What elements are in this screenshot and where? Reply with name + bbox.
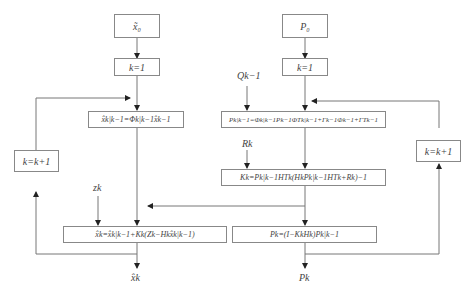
state-prediction-label: x̂k|k−1=Φk|k−1x̂k−1	[102, 115, 171, 124]
covariance-update-box: Pk=(I−KkHk)Pk|k−1	[232, 226, 377, 243]
left-k-init-label: k=1	[129, 62, 145, 73]
kalman-gain-box: Kk=Pk|k−1HTk(HkPk|k−1HTk+Rk)−1	[221, 169, 386, 186]
initial-covariance-box: P₀	[282, 14, 328, 38]
state-update-label: x̂k=x̂k|k−1+Kk(Zk−Hkx̂k|k−1)	[95, 230, 194, 239]
kalman-gain-label: Kk=Pk|k−1HTk(HkPk|k−1HTk+Rk)−1	[240, 173, 367, 182]
connector-lines	[0, 0, 473, 301]
measurement-input-label: zk	[93, 182, 101, 193]
right-k-init-box: k=1	[282, 58, 328, 76]
state-prediction-box: x̂k|k−1=Φk|k−1x̂k−1	[88, 111, 184, 128]
left-loop-increment-box: k=k+1	[14, 150, 59, 172]
measurement-noise-input-label: Rk	[242, 138, 253, 149]
covariance-prediction-label: Pk|k−1=Φk|k−1Pk−1ΦTk|k−1+Γk−1Φk−1+ΓTk−1	[229, 116, 378, 124]
initial-state-box: x̃₀	[114, 14, 160, 38]
initial-covariance-label: P₀	[300, 21, 310, 32]
left-k-init-box: k=1	[114, 58, 160, 76]
left-loop-increment-label: k=k+1	[23, 156, 50, 167]
state-update-box: x̂k=x̂k|k−1+Kk(Zk−Hkx̂k|k−1)	[63, 226, 227, 243]
covariance-update-label: Pk=(I−KkHk)Pk|k−1	[270, 230, 339, 239]
right-loop-increment-label: k=k+1	[425, 146, 452, 157]
right-loop-increment-box: k=k+1	[416, 140, 461, 162]
initial-state-label: x̃₀	[133, 21, 141, 32]
right-k-init-label: k=1	[297, 62, 313, 73]
process-noise-input-label: Qk−1	[237, 70, 260, 81]
covariance-output-label: Pk	[299, 272, 310, 283]
state-output-label: x̂k	[131, 272, 140, 283]
covariance-prediction-box: Pk|k−1=Φk|k−1Pk−1ΦTk|k−1+Γk−1Φk−1+ΓTk−1	[221, 111, 386, 128]
